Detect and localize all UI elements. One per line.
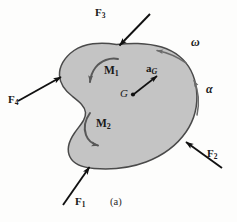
rigid-body-shape: [59, 43, 196, 169]
moment-label-m1: M1: [104, 65, 119, 78]
free-body-diagram-figure: F3 F4 F1 F2 M1 M2 aG G ω α (a): [0, 0, 237, 222]
force-label-f1: F1: [75, 196, 85, 208]
mass-center-label-g: G: [120, 88, 128, 99]
angular-velocity-label-omega: ω: [191, 36, 200, 48]
mass-center-point: [131, 92, 135, 96]
force-label-f3: F3: [95, 7, 105, 19]
force-label-f4: F4: [8, 94, 18, 106]
diagram-canvas: [0, 0, 237, 222]
force-label-f2: F2: [207, 148, 217, 160]
force-arrow-f4: [18, 77, 61, 101]
moment-label-m2: M2: [96, 118, 111, 131]
acceleration-label-ag: aG: [146, 63, 157, 76]
figure-caption: (a): [110, 197, 122, 208]
angular-acceleration-label-alpha: α: [206, 83, 213, 95]
force-arrow-f3: [120, 14, 151, 46]
